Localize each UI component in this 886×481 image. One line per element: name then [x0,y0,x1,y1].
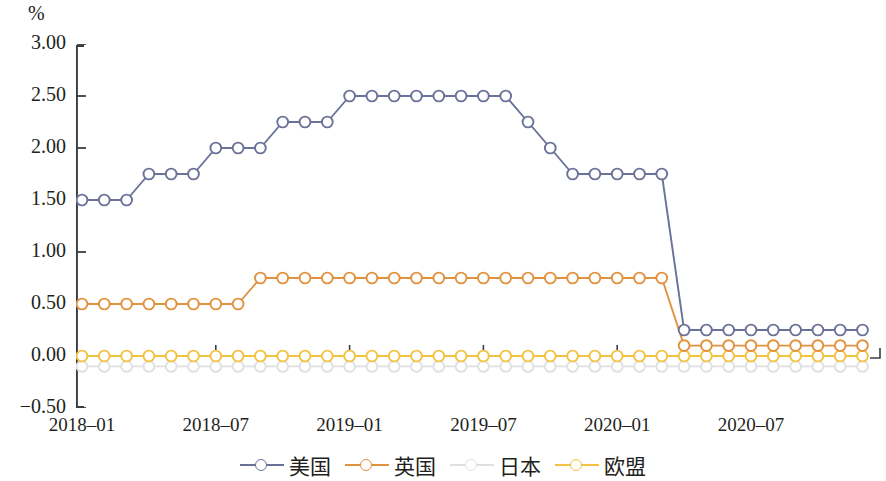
data-point-marker [166,351,177,362]
series-2 [77,361,868,372]
legend-circle-icon [465,459,477,471]
data-point-marker [723,351,734,362]
data-point-marker [835,361,846,372]
plot-area [76,44,882,408]
data-point-marker [701,340,712,351]
data-point-marker [656,361,667,372]
data-point-marker [500,361,511,372]
series-line [82,278,863,346]
data-point-marker [768,340,779,351]
data-point-marker [679,340,690,351]
data-point-marker [389,273,400,284]
data-point-marker [634,361,645,372]
y-axis-tick-label: 0.00 [0,343,66,366]
data-point-marker [857,361,868,372]
data-point-marker [634,169,645,180]
data-point-marker [99,299,110,310]
legend-item-2[interactable]: 日本 [450,450,541,480]
data-point-marker [701,325,712,336]
data-point-marker [790,325,801,336]
data-point-marker [389,91,400,102]
data-point-marker [233,299,244,310]
data-point-marker [188,169,199,180]
data-point-marker [411,91,422,102]
data-point-marker [768,361,779,372]
data-point-marker [768,325,779,336]
data-point-marker [144,351,155,362]
data-point-marker [545,351,556,362]
data-point-marker [679,351,690,362]
data-point-marker [545,143,556,154]
x-axis-tick-label: 2018–07 [146,414,286,436]
legend-item-1[interactable]: 英国 [345,450,436,480]
data-point-marker [300,351,311,362]
data-point-marker [121,351,132,362]
data-point-marker [411,361,422,372]
data-point-marker [590,361,601,372]
data-point-marker [344,91,355,102]
data-point-marker [300,273,311,284]
data-point-marker [255,351,266,362]
data-point-marker [679,361,690,372]
data-point-marker [567,351,578,362]
y-axis-tick-label: 2.50 [0,83,66,106]
data-point-marker [813,361,824,372]
data-point-marker [210,351,221,362]
data-point-marker [857,351,868,362]
data-point-marker [411,273,422,284]
data-point-marker [746,340,757,351]
legend-item-3[interactable]: 欧盟 [555,450,646,480]
data-point-marker [233,351,244,362]
data-point-marker [567,169,578,180]
y-axis-tick-label: 1.50 [0,187,66,210]
data-point-marker [701,361,712,372]
data-point-marker [746,351,757,362]
data-point-marker [723,325,734,336]
data-point-marker [813,325,824,336]
data-point-marker [857,340,868,351]
data-point-marker [144,361,155,372]
legend-marker-icon [555,457,599,473]
x-axis-tick-label: 2018–01 [12,414,152,436]
data-point-marker [523,361,534,372]
data-point-marker [344,361,355,372]
data-point-marker [456,361,467,372]
data-point-marker [233,361,244,372]
data-point-marker [210,299,221,310]
interest-rate-line-chart: % 3.002.502.001.501.000.500.00−0.50 2018… [0,0,886,481]
data-point-marker [634,273,645,284]
data-point-marker [433,361,444,372]
legend-item-0[interactable]: 美国 [240,450,331,480]
data-point-marker [166,299,177,310]
data-point-marker [723,340,734,351]
legend-circle-icon [570,459,582,471]
data-point-marker [813,340,824,351]
x-axis-tick-label: 2019–07 [413,414,553,436]
data-point-marker [813,351,824,362]
data-point-marker [768,351,779,362]
data-point-marker [322,273,333,284]
data-point-marker [433,351,444,362]
chart-legend: 美国英国日本欧盟 [0,448,886,481]
data-point-marker [99,351,110,362]
data-point-marker [500,273,511,284]
data-point-marker [545,361,556,372]
data-point-marker [590,169,601,180]
data-point-marker [590,273,601,284]
data-point-marker [166,169,177,180]
legend-label: 日本 [499,450,541,480]
data-point-marker [188,351,199,362]
data-point-marker [389,361,400,372]
data-point-marker [612,273,623,284]
data-point-marker [456,351,467,362]
data-point-marker [210,361,221,372]
data-point-marker [456,273,467,284]
data-point-marker [77,361,88,372]
data-point-marker [656,273,667,284]
data-point-marker [233,143,244,154]
legend-circle-icon [360,459,372,471]
data-point-marker [790,361,801,372]
data-point-marker [77,351,88,362]
data-point-marker [121,195,132,206]
x-axis-tick-label: 2020–07 [681,414,821,436]
